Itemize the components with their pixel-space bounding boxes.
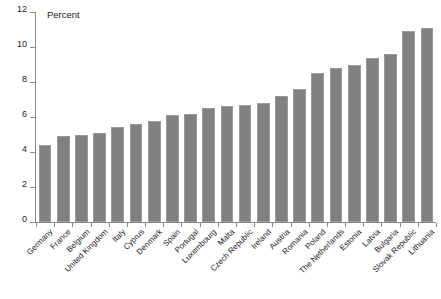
bar xyxy=(384,54,397,222)
plot-area xyxy=(36,12,436,222)
x-axis-tick xyxy=(327,223,328,227)
x-axis-tick xyxy=(218,223,219,227)
x-axis-tick xyxy=(254,223,255,227)
bar xyxy=(148,121,161,222)
x-axis-tick xyxy=(181,223,182,227)
bar xyxy=(330,68,343,222)
y-axis-tick-label: 0 xyxy=(22,215,27,224)
bar xyxy=(57,136,70,222)
bar xyxy=(202,108,215,222)
bar xyxy=(166,115,179,222)
bar xyxy=(402,31,415,222)
x-axis-tick xyxy=(309,223,310,227)
x-axis-tick xyxy=(200,223,201,227)
bar xyxy=(93,133,106,222)
bar xyxy=(184,114,197,223)
y-axis-tick-label: 4 xyxy=(22,145,27,154)
x-axis-tick xyxy=(36,223,37,227)
x-axis-tick xyxy=(436,223,437,227)
x-axis-tick xyxy=(54,223,55,227)
bar xyxy=(293,89,306,222)
y-axis-tick-label: 6 xyxy=(22,110,27,119)
x-axis-tick xyxy=(127,223,128,227)
bar xyxy=(39,145,52,222)
y-axis-tick-label: 10 xyxy=(17,40,27,49)
bar xyxy=(421,28,434,222)
bar-chart: Percent 024681012 GermanyFranceBelgiumUn… xyxy=(0,0,441,299)
y-axis-tick-label: 8 xyxy=(22,75,27,84)
bar xyxy=(111,127,124,222)
x-axis-tick xyxy=(363,223,364,227)
x-axis-tick xyxy=(418,223,419,227)
bar xyxy=(311,73,324,222)
bar xyxy=(275,96,288,222)
bar xyxy=(366,58,379,222)
x-axis-tick xyxy=(345,223,346,227)
x-axis-labels: GermanyFranceBelgiumUnited KingdomItalyC… xyxy=(36,228,436,299)
bar xyxy=(257,103,270,222)
bar xyxy=(348,65,361,223)
bar xyxy=(130,124,143,222)
bar xyxy=(75,135,88,223)
bar xyxy=(221,106,234,222)
x-axis-tick xyxy=(272,223,273,227)
x-axis-tick xyxy=(163,223,164,227)
bar xyxy=(239,105,252,222)
x-axis-tick xyxy=(145,223,146,227)
x-axis-tick xyxy=(91,223,92,227)
x-axis-tick xyxy=(72,223,73,227)
x-axis-tick xyxy=(109,223,110,227)
x-axis-tick xyxy=(400,223,401,227)
x-axis-tick xyxy=(236,223,237,227)
y-axis-tick-label: 12 xyxy=(17,5,27,14)
x-axis-tick xyxy=(291,223,292,227)
x-axis-tick xyxy=(381,223,382,227)
y-axis-tick-label: 2 xyxy=(22,180,27,189)
